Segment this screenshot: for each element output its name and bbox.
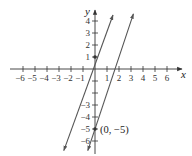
x-tick-label: 5 bbox=[153, 73, 158, 83]
y-axis-label: y bbox=[84, 5, 90, 17]
x-axis-label: x bbox=[180, 68, 186, 80]
y-tick-label: 1 bbox=[86, 52, 91, 62]
ticks: −6−5−4−3−2−11234564321−3−4−5−6 bbox=[15, 16, 170, 146]
x-tick-label: 2 bbox=[117, 73, 122, 83]
point-annotation: (0, −5) bbox=[100, 124, 129, 136]
y-tick-label: −5 bbox=[80, 124, 90, 134]
y-tick-label: −4 bbox=[80, 112, 90, 122]
y-tick-label: 4 bbox=[86, 16, 91, 26]
point-marker bbox=[93, 55, 97, 59]
y-tick-label: 3 bbox=[86, 28, 91, 38]
y-tick-label: −6 bbox=[80, 136, 90, 146]
x-tick-label: 3 bbox=[129, 73, 134, 83]
x-tick-label: −2 bbox=[63, 73, 73, 83]
x-tick-label: 4 bbox=[141, 73, 146, 83]
x-tick-label: 1 bbox=[105, 73, 110, 83]
x-tick-label: 6 bbox=[165, 73, 170, 83]
x-tick-label: −4 bbox=[39, 73, 49, 83]
y-tick-label: 2 bbox=[86, 40, 91, 50]
x-tick-label: −6 bbox=[15, 73, 25, 83]
x-tick-label: −1 bbox=[75, 73, 85, 83]
point-marker bbox=[93, 127, 97, 131]
coordinate-plane: −6−5−4−3−2−11234564321−3−4−5−6 x y (0, −… bbox=[0, 0, 192, 156]
x-tick-label: −5 bbox=[27, 73, 37, 83]
x-tick-label: −3 bbox=[51, 73, 61, 83]
